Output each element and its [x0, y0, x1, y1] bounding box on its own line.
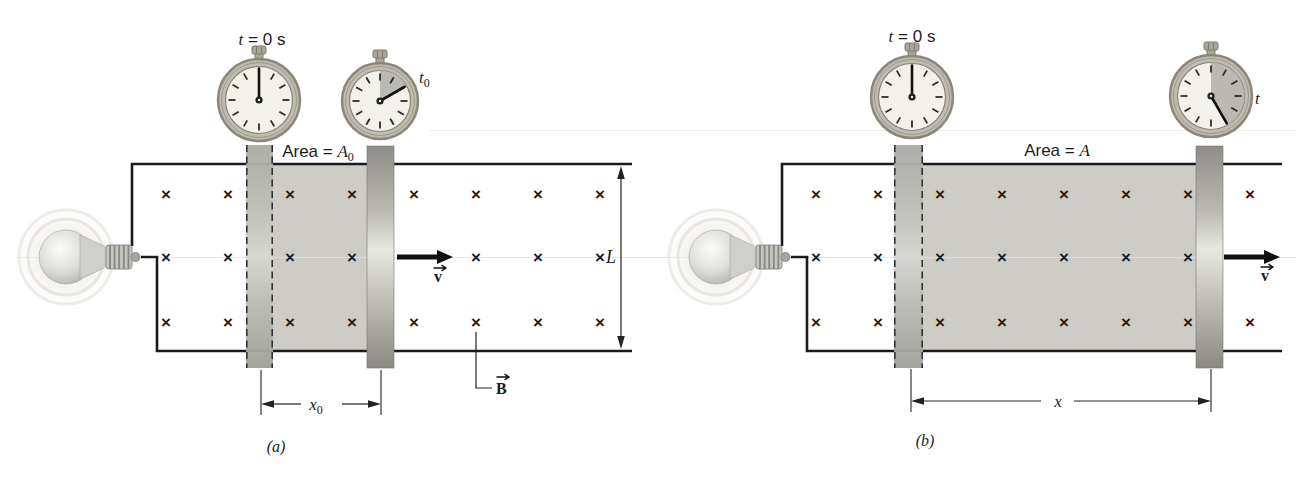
bulb-tip-contact [781, 253, 790, 262]
caption-a: (a) [267, 438, 286, 456]
width-label-b: x [1053, 392, 1062, 411]
svg-text:×: × [1183, 185, 1193, 204]
svg-text:×: × [533, 313, 543, 332]
initial-rod-position-b [894, 145, 923, 368]
svg-text:×: × [1245, 185, 1255, 204]
svg-text:×: × [935, 313, 945, 332]
stopwatch-now-b [1170, 42, 1252, 137]
svg-text:×: × [1059, 248, 1069, 267]
svg-text:×: × [161, 185, 171, 204]
svg-text:×: × [1059, 185, 1069, 204]
svg-text:×: × [873, 248, 883, 267]
svg-text:×: × [533, 248, 543, 267]
length-label-a: L [605, 247, 616, 267]
conducting-rod-a [367, 146, 394, 368]
figure-stage: ××××××××××××××××××××××××××××××××××××××××… [0, 0, 1304, 482]
caption-b: (b) [916, 432, 935, 450]
svg-text:×: × [935, 185, 945, 204]
field-leader-line-a [476, 332, 492, 388]
svg-text:×: × [409, 313, 419, 332]
field-label-a: B [496, 380, 507, 397]
stopwatch-start-b [871, 43, 953, 138]
bulb-tip-contact [131, 253, 140, 262]
svg-text:×: × [1245, 313, 1255, 332]
light-bulb-a [8, 199, 140, 315]
area-label-a: Area = A0 [282, 142, 354, 164]
svg-text:×: × [223, 313, 233, 332]
svg-text:×: × [595, 313, 605, 332]
svg-text:×: × [471, 313, 481, 332]
svg-text:×: × [347, 313, 357, 332]
svg-text:×: × [997, 313, 1007, 332]
velocity-arrow-b [1224, 250, 1280, 264]
svg-text:×: × [285, 248, 295, 267]
svg-text:×: × [161, 248, 171, 267]
svg-text:×: × [1183, 248, 1193, 267]
svg-text:×: × [595, 248, 605, 267]
initial-rod-position-a [246, 145, 273, 368]
svg-text:×: × [533, 185, 543, 204]
conducting-rod-b [1196, 146, 1223, 368]
field-vector-arrow-a [497, 374, 509, 379]
width-label-a: x0 [308, 395, 323, 417]
stopwatch-now-label-b: t [1255, 89, 1261, 108]
velocity-label-b: v [1261, 267, 1269, 284]
svg-text:×: × [935, 248, 945, 267]
svg-text:×: × [409, 185, 419, 204]
svg-text:×: × [997, 185, 1007, 204]
svg-text:×: × [811, 248, 821, 267]
svg-text:×: × [161, 313, 171, 332]
svg-text:×: × [997, 248, 1007, 267]
light-bulb-b [658, 199, 790, 315]
svg-text:×: × [471, 185, 481, 204]
svg-text:×: × [811, 313, 821, 332]
svg-text:×: × [285, 313, 295, 332]
area-label-b: Area = A [1024, 141, 1090, 160]
svg-text:×: × [811, 185, 821, 204]
velocity-arrow-a [397, 250, 453, 264]
svg-text:×: × [285, 185, 295, 204]
svg-text:×: × [347, 185, 357, 204]
svg-text:×: × [873, 185, 883, 204]
svg-text:×: × [1121, 185, 1131, 204]
svg-text:×: × [873, 313, 883, 332]
svg-text:×: × [1121, 313, 1131, 332]
svg-text:×: × [1183, 313, 1193, 332]
physics-figure-canvas: ××××××××××××××××××××××××××××××××××××××××… [0, 0, 1304, 482]
svg-text:×: × [347, 248, 357, 267]
svg-text:×: × [1059, 313, 1069, 332]
stopwatch-now-a [342, 50, 418, 139]
stopwatch-now-label-a: t0 [419, 68, 430, 90]
stopwatch-layer [218, 42, 1252, 141]
svg-text:×: × [595, 185, 605, 204]
velocity-label-a: v [434, 268, 442, 285]
stopwatch-start-label-b: t = 0 s [889, 27, 936, 46]
stopwatch-start-a [218, 46, 300, 141]
svg-text:×: × [223, 248, 233, 267]
svg-text:×: × [1121, 248, 1131, 267]
svg-text:×: × [471, 248, 481, 267]
svg-text:×: × [223, 185, 233, 204]
stopwatch-start-label-a: t = 0 s [239, 30, 286, 49]
